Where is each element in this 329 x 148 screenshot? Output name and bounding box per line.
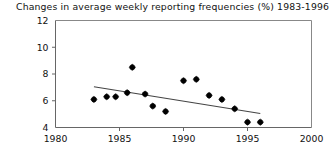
data-point — [104, 94, 110, 100]
data-point — [206, 92, 212, 98]
data-point — [232, 106, 238, 112]
data-point — [129, 64, 135, 70]
x-tick-label: 2000 — [300, 133, 324, 144]
data-point — [124, 90, 130, 96]
data-point — [163, 108, 169, 114]
x-tick-label: 1990 — [172, 133, 196, 144]
data-point — [193, 76, 199, 82]
data-point — [257, 119, 263, 125]
data-point — [142, 91, 148, 97]
x-tick-label: 1980 — [44, 133, 68, 144]
data-point — [113, 94, 119, 100]
data-point — [245, 119, 251, 125]
data-point — [150, 103, 156, 109]
data-point — [91, 96, 97, 102]
y-tick-label: 8 — [43, 68, 49, 79]
x-tick-label: 1995 — [236, 133, 260, 144]
data-point — [181, 78, 187, 84]
y-tick-label: 10 — [37, 42, 49, 53]
y-tick-label: 6 — [43, 95, 49, 106]
y-tick-label: 4 — [43, 122, 49, 133]
y-tick-label: 12 — [37, 15, 49, 26]
x-tick-label: 1985 — [108, 133, 132, 144]
data-point — [219, 96, 225, 102]
